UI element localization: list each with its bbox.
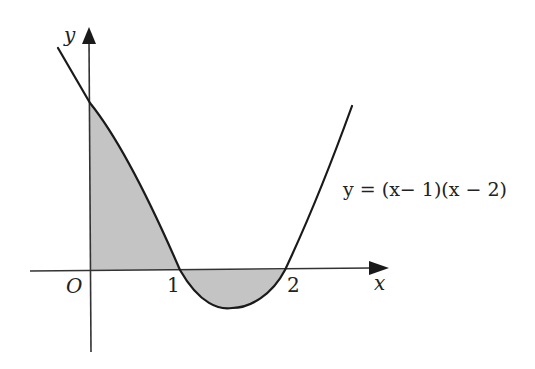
- x-tick-label-1: 1: [167, 273, 180, 297]
- y-axis-label: y: [63, 23, 76, 47]
- diagram-canvas: y x O 1 2 y = (x− 1)(x − 2): [0, 0, 535, 369]
- y-axis: [89, 40, 91, 352]
- y-axis-arrow-icon: [82, 27, 96, 44]
- x-axis-label: x: [374, 271, 385, 295]
- shaded-region-1-to-2: [180, 270, 285, 308]
- shaded-region-0-to-1: [90, 103, 180, 270]
- equation-label: y = (x− 1)(x − 2): [342, 178, 507, 200]
- graph-svg: y x O 1 2 y = (x− 1)(x − 2): [0, 0, 535, 369]
- origin-label: O: [66, 274, 82, 298]
- x-tick-label-2: 2: [287, 273, 300, 297]
